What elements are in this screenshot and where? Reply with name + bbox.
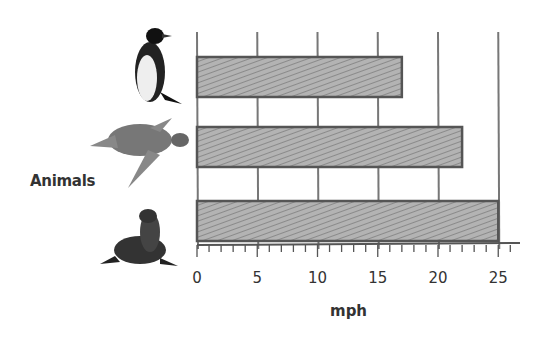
x-tick-label: 15 — [368, 269, 387, 287]
bar-penguin — [197, 57, 402, 97]
sea-turtle-icon — [90, 118, 189, 188]
category-icons — [90, 28, 189, 266]
x-tick-label: 20 — [428, 269, 447, 287]
x-tick-label: 25 — [489, 269, 508, 287]
x-axis: 0510152025 — [192, 243, 520, 287]
penguin-icon — [135, 28, 182, 104]
x-tick-label: 0 — [192, 269, 202, 287]
x-tick-label: 5 — [252, 269, 262, 287]
x-axis-line — [197, 243, 520, 245]
sea-lion-icon — [100, 209, 178, 266]
bar-chart: 0510152025 — [0, 0, 549, 337]
bars — [197, 57, 498, 241]
bar-sea-turtle — [197, 127, 462, 167]
bar-sea-lion — [197, 201, 498, 241]
x-tick-label: 10 — [308, 269, 327, 287]
